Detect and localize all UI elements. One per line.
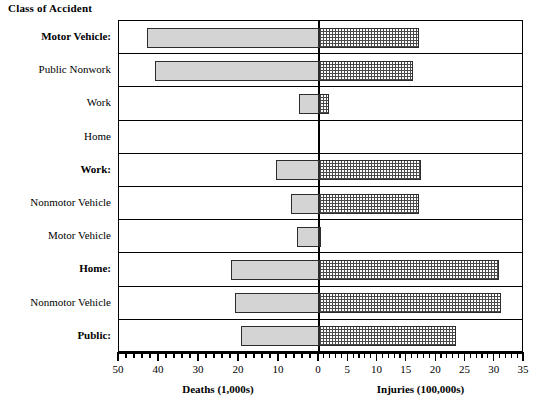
axis-tick-major (522, 352, 523, 361)
axis-tick-minor (189, 352, 190, 358)
axis-line (118, 352, 523, 354)
axis-tick-minor (511, 352, 512, 358)
chart-row (119, 21, 522, 54)
axis-tick-minor (335, 352, 336, 358)
axis-tick-label: 50 (103, 363, 133, 375)
chart-row (119, 121, 522, 154)
chart-row (119, 54, 522, 87)
axis-tick-minor (452, 352, 453, 358)
category-label: Work (0, 86, 114, 119)
axis-tick-label: 5 (332, 363, 362, 375)
category-label: Motor Vehicle (0, 219, 114, 252)
axis-tick-minor (125, 352, 126, 358)
axis-tick-minor (173, 352, 174, 358)
axis-tick-label: 10 (362, 363, 392, 375)
bar-deaths (297, 227, 319, 247)
category-label: Nonmotor Vehicle (0, 186, 114, 219)
category-label: Home: (0, 252, 114, 285)
axis-tick-label: 10 (263, 363, 293, 375)
axis-tick-minor (181, 352, 182, 358)
bar-injuries (319, 94, 329, 114)
axis-label-injuries: Injuries (100,000s) (321, 383, 521, 395)
axis-tick-minor (423, 352, 424, 358)
chart-row (119, 320, 522, 353)
axis-tick-minor (213, 352, 214, 358)
axis-tick-minor (141, 352, 142, 358)
bar-injuries (319, 194, 419, 214)
axis-tick-minor (399, 352, 400, 358)
axis-tick-minor (309, 352, 310, 358)
axis-tick-minor (133, 352, 134, 358)
axis-tick-minor (446, 352, 447, 358)
chart-row (119, 87, 522, 120)
value-axis: Deaths (1,000s) Injuries (100,000s) 5040… (118, 352, 523, 410)
bar-injuries (319, 28, 419, 48)
axis-tick-label: 0 (303, 363, 333, 375)
chart-row (119, 220, 522, 253)
axis-tick-major (347, 352, 348, 361)
axis-tick-minor (499, 352, 500, 358)
bar-deaths (241, 326, 319, 346)
bar-deaths (231, 260, 319, 280)
axis-tick-minor (221, 352, 222, 358)
axis-tick-major (405, 352, 406, 361)
axis-tick-label: 20 (223, 363, 253, 375)
axis-tick-label: 15 (391, 363, 421, 375)
axis-tick-major (197, 352, 198, 361)
bar-deaths (147, 28, 319, 48)
bar-deaths (235, 293, 319, 313)
bar-injuries (319, 293, 501, 313)
plot-area (118, 20, 523, 352)
axis-tick-minor (370, 352, 371, 358)
axis-tick-minor (341, 352, 342, 358)
axis-tick-minor (229, 352, 230, 358)
axis-tick-minor (476, 352, 477, 358)
axis-tick-minor (253, 352, 254, 358)
axis-tick-minor (323, 352, 324, 358)
axis-tick-minor (470, 352, 471, 358)
axis-label-deaths: Deaths (1,000s) (118, 383, 318, 395)
chart-row (119, 287, 522, 320)
axis-tick-minor (353, 352, 354, 358)
axis-tick-minor (329, 352, 330, 358)
axis-tick-major (464, 352, 465, 361)
bar-deaths (276, 160, 319, 180)
axis-tick-minor (388, 352, 389, 358)
axis-tick-major (277, 352, 278, 361)
axis-tick-minor (382, 352, 383, 358)
chart-row (119, 187, 522, 220)
axis-tick-label: 30 (479, 363, 509, 375)
axis-tick-minor (411, 352, 412, 358)
bar-injuries (319, 160, 421, 180)
category-axis-labels: Motor Vehicle:Public NonworkWorkHomeWork… (0, 20, 114, 352)
category-label: Public: (0, 319, 114, 352)
axis-tick-label: 30 (183, 363, 213, 375)
bar-deaths (299, 94, 319, 114)
axis-tick-minor (269, 352, 270, 358)
bar-injuries (319, 326, 456, 346)
axis-tick-minor (429, 352, 430, 358)
category-label: Nonmotor Vehicle (0, 286, 114, 319)
category-label: Home (0, 120, 114, 153)
chart-row (119, 154, 522, 187)
chart-container: Class of Accident Motor Vehicle:Public N… (0, 0, 546, 410)
axis-tick-major (493, 352, 494, 361)
axis-tick-minor (245, 352, 246, 358)
axis-tick-minor (149, 352, 150, 358)
bar-deaths (155, 61, 319, 81)
category-label: Public Nonwork (0, 53, 114, 86)
axis-tick-minor (505, 352, 506, 358)
axis-tick-minor (293, 352, 294, 358)
axis-tick-major (317, 352, 318, 361)
bar-injuries (319, 260, 499, 280)
axis-tick-label: 40 (143, 363, 173, 375)
axis-tick-minor (394, 352, 395, 358)
axis-tick-minor (417, 352, 418, 358)
axis-tick-minor (458, 352, 459, 358)
axis-tick-minor (487, 352, 488, 358)
axis-tick-major (376, 352, 377, 361)
axis-tick-minor (364, 352, 365, 358)
page-title: Class of Accident (8, 2, 92, 14)
category-label: Motor Vehicle: (0, 20, 114, 53)
axis-tick-minor (261, 352, 262, 358)
